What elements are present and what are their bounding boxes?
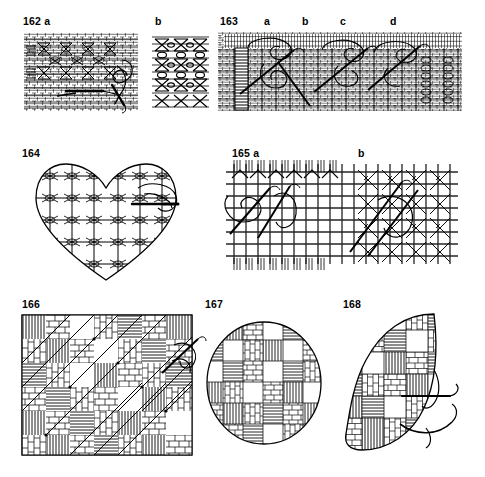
- figure-label-166: 166: [22, 299, 40, 310]
- figure-168: [340, 308, 470, 463]
- figure-label-163b: b: [302, 16, 309, 27]
- figure-164: [32, 158, 180, 283]
- figure-label-163: 163: [220, 16, 238, 27]
- figure-label-163c: c: [340, 16, 346, 27]
- figure-label-162: 162 a: [23, 16, 50, 27]
- figure-label-162b: b: [155, 16, 162, 27]
- figure-label-164: 164: [22, 148, 40, 159]
- figure-label-165: 165 a: [232, 148, 259, 159]
- figure-162a: [24, 33, 138, 111]
- figure-163: [218, 32, 462, 111]
- figure-label-163a: a: [264, 16, 270, 27]
- figure-label-167: 167: [205, 299, 223, 310]
- figure-165: [226, 160, 458, 270]
- illustration-plate: 162 a b 163 a b c d 164 165 a b 166 167 …: [0, 0, 485, 477]
- figure-162b: [152, 33, 209, 111]
- figure-label-165b: b: [358, 148, 365, 159]
- figure-label-163d: d: [390, 16, 397, 27]
- figure-167: [205, 320, 323, 446]
- figure-166: [22, 315, 192, 455]
